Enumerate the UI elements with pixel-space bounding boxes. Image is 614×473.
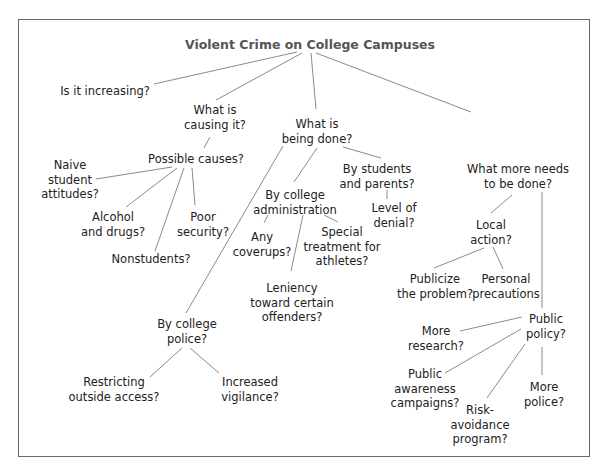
node-label: By students bbox=[339, 162, 414, 177]
node-label: policy? bbox=[526, 327, 566, 342]
node-local-action: Local action? bbox=[470, 218, 512, 247]
node-label: awareness bbox=[391, 382, 460, 397]
node-restricting-outside-access: Restricting outside access? bbox=[69, 375, 160, 404]
node-by-college-police: By college police? bbox=[157, 317, 217, 346]
node-label: Alcohol bbox=[81, 210, 145, 225]
node-label: avoidance bbox=[450, 418, 509, 433]
node-personal-precautions: Personal precautions bbox=[472, 272, 540, 301]
node-label: Level of bbox=[371, 201, 416, 216]
node-what-is-causing-it: What is causing it? bbox=[184, 103, 246, 132]
node-label: Local bbox=[470, 218, 512, 233]
node-by-college-administration: By college administration bbox=[253, 188, 337, 217]
node-label: student bbox=[41, 173, 99, 188]
node-label: athletes? bbox=[303, 254, 380, 269]
node-label: Increased bbox=[221, 375, 279, 390]
node-label: administration bbox=[253, 203, 337, 218]
node-label: precautions bbox=[472, 287, 540, 302]
node-label: offenders? bbox=[250, 310, 334, 325]
node-public-awareness-campaigns: Public awareness campaigns? bbox=[391, 367, 460, 411]
node-label: Any bbox=[233, 230, 292, 245]
node-label: Public bbox=[526, 312, 566, 327]
node-increased-vigilance: Increased vigilance? bbox=[221, 375, 279, 404]
node-by-students-and-parents: By students and parents? bbox=[339, 162, 414, 191]
node-label: and parents? bbox=[339, 177, 414, 192]
node-label: Special bbox=[303, 225, 380, 240]
node-label: More bbox=[524, 380, 564, 395]
node-label: By college bbox=[253, 188, 337, 203]
node-special-treatment-for-athletes: Special treatment for athletes? bbox=[303, 225, 380, 269]
node-label: research? bbox=[408, 339, 464, 354]
node-poor-security: Poor security? bbox=[177, 210, 229, 239]
node-what-is-being-done: What is being done? bbox=[282, 117, 353, 146]
node-label: Publicize bbox=[397, 272, 473, 287]
node-label: causing it? bbox=[184, 118, 246, 133]
node-more-police: More police? bbox=[524, 380, 564, 409]
node-label: police? bbox=[157, 332, 217, 347]
node-label: vigilance? bbox=[221, 390, 279, 405]
node-more-research: More research? bbox=[408, 324, 464, 353]
node-label: Leniency bbox=[250, 281, 334, 296]
node-label: Public bbox=[391, 367, 460, 382]
node-label: outside access? bbox=[69, 390, 160, 405]
node-alcohol-and-drugs: Alcohol and drugs? bbox=[81, 210, 145, 239]
node-is-it-increasing: Is it increasing? bbox=[60, 84, 150, 99]
node-naive-student-attitudes: Naive student attitudes? bbox=[41, 158, 99, 202]
node-label: Nonstudents? bbox=[112, 252, 191, 267]
node-label: attitudes? bbox=[41, 187, 99, 202]
node-label: What is bbox=[184, 103, 246, 118]
node-label: and drugs? bbox=[81, 225, 145, 240]
node-label: Restricting bbox=[69, 375, 160, 390]
node-public-policy: Public policy? bbox=[526, 312, 566, 341]
node-what-more-needs-to-be-done: What more needs to be done? bbox=[467, 162, 569, 191]
node-label: Poor bbox=[177, 210, 229, 225]
node-any-coverups: Any coverups? bbox=[233, 230, 292, 259]
node-label: toward certain bbox=[250, 296, 334, 311]
node-label: action? bbox=[470, 233, 512, 248]
node-label: the problem? bbox=[397, 287, 473, 302]
node-label: being done? bbox=[282, 132, 353, 147]
node-label: What is bbox=[282, 117, 353, 132]
node-label: Naive bbox=[41, 158, 99, 173]
node-nonstudents: Nonstudents? bbox=[112, 252, 191, 267]
node-possible-causes: Possible causes? bbox=[148, 152, 244, 167]
node-label: police? bbox=[524, 395, 564, 410]
node-leniency-toward-certain-offenders: Leniency toward certain offenders? bbox=[250, 281, 334, 325]
node-label: campaigns? bbox=[391, 396, 460, 411]
node-label: Is it increasing? bbox=[60, 84, 150, 99]
node-label: More bbox=[408, 324, 464, 339]
node-label: Personal bbox=[472, 272, 540, 287]
node-label: to be done? bbox=[467, 177, 569, 192]
diagram-title: Violent Crime on College Campuses bbox=[185, 37, 435, 52]
node-label: coverups? bbox=[233, 245, 292, 260]
node-risk-avoidance-program: Risk- avoidance program? bbox=[450, 403, 509, 447]
node-label: Possible causes? bbox=[148, 152, 244, 167]
node-publicize-the-problem: Publicize the problem? bbox=[397, 272, 473, 301]
node-label: What more needs bbox=[467, 162, 569, 177]
node-label: treatment for bbox=[303, 240, 380, 255]
node-label: By college bbox=[157, 317, 217, 332]
node-label: program? bbox=[450, 432, 509, 447]
node-label: Risk- bbox=[450, 403, 509, 418]
node-label: security? bbox=[177, 225, 229, 240]
